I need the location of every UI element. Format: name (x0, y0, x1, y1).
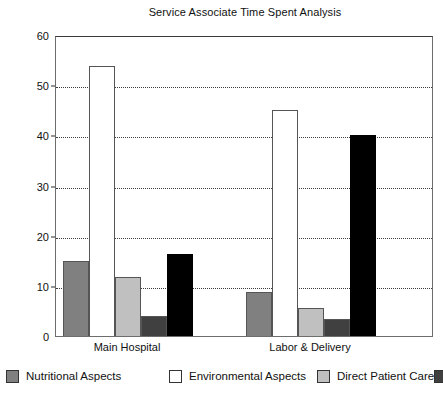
y-tick-mark (51, 86, 55, 87)
legend-item[interactable]: Direct Patient Care (317, 370, 434, 383)
legend-swatch-icon (6, 370, 19, 383)
y-tick-mark (51, 236, 55, 237)
y-tick-mark (51, 286, 55, 287)
legend-swatch-icon (169, 370, 182, 383)
y-tick-label: 60 (37, 30, 49, 42)
legend-label: Environmental Aspects (189, 371, 306, 383)
legend-label: Nutritional Aspects (26, 371, 121, 383)
x-tick-label: Labor & Delivery (269, 341, 350, 353)
chart-title: Service Associate Time Spent Analysis (55, 6, 435, 18)
y-tick-label: 50 (37, 80, 49, 92)
y-tick-label: 30 (37, 181, 49, 193)
y-tick-label: 0 (43, 331, 49, 343)
y-tick-mark (51, 136, 55, 137)
chart-legend: Nutritional AspectsEnvironmental Aspects… (6, 367, 437, 386)
legend-item[interactable]: Environmental Aspects (169, 370, 317, 383)
y-tick-label: 20 (37, 231, 49, 243)
legend-swatch-icon (434, 370, 443, 383)
y-tick-mark (51, 186, 55, 187)
legend-item[interactable]: Nutritional Aspects (6, 370, 169, 383)
legend-label: Direct Patient Care (337, 371, 434, 383)
y-axis: 0102030405060 (55, 36, 433, 337)
legend-swatch-icon (317, 370, 330, 383)
legend-item[interactable]: Clerical Duties (434, 370, 443, 383)
y-tick-label: 10 (37, 281, 49, 293)
x-tick-label: Main Hospital (94, 341, 161, 353)
y-tick-label: 40 (37, 130, 49, 142)
bar-chart: Service Associate Time Spent Analysis 01… (0, 0, 443, 415)
